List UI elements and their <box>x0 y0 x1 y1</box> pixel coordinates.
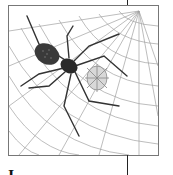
illustration-frame <box>8 5 159 156</box>
wrapped-insect-icon <box>85 64 109 92</box>
caption-text-partial: I <box>8 168 14 175</box>
web-icon <box>9 11 158 155</box>
spider-icon <box>21 16 127 136</box>
spider-web-illustration <box>9 6 158 155</box>
margin-rule-bottom <box>127 155 128 175</box>
